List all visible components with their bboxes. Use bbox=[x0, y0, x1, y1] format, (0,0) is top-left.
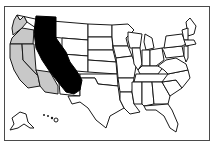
state-alaska bbox=[10, 112, 34, 130]
state-wisconsin bbox=[128, 32, 142, 48]
state-michigan bbox=[144, 34, 154, 50]
state-new-york bbox=[164, 34, 186, 48]
state-mississippi bbox=[132, 82, 142, 104]
state-massachusetts bbox=[184, 40, 196, 46]
state-north-dakota bbox=[88, 24, 112, 37]
state-florida bbox=[144, 104, 178, 132]
state-hawaii bbox=[43, 114, 58, 122]
state-kansas bbox=[88, 60, 117, 74]
state-south-dakota bbox=[88, 37, 113, 50]
state-new-jersey bbox=[184, 46, 188, 62]
state-indiana bbox=[142, 50, 150, 66]
us-map bbox=[0, 0, 215, 147]
